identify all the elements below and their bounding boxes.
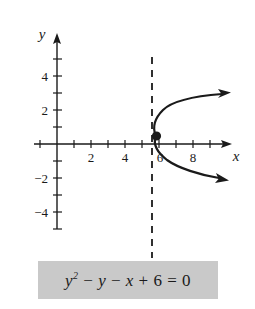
equation-minus-1: − <box>83 270 93 289</box>
equation-plus: + <box>139 270 149 289</box>
x-tick-label-4: 4 <box>122 150 129 165</box>
equation-equals: = <box>167 270 177 289</box>
parabola-lower-branch <box>155 137 219 178</box>
x-tick-label-2: 2 <box>88 150 95 165</box>
x-tick-label-8: 8 <box>190 150 197 165</box>
x-axis-label: x <box>232 148 240 164</box>
y-tick-label-neg4: −4 <box>34 205 48 220</box>
y-tick-label-4: 4 <box>42 69 49 84</box>
y-axis-label: y <box>37 26 46 42</box>
x-axis <box>34 140 232 148</box>
y-tick-label-2: 2 <box>42 103 49 118</box>
y-tick-label-neg2: −2 <box>34 171 48 186</box>
equation-caption-box: y2 − y − x + 6 = 0 <box>38 261 218 299</box>
y-axis <box>53 33 61 229</box>
equation-text: y2 − y − x + 6 = 0 <box>65 270 191 291</box>
equation-x-term: x <box>126 270 134 289</box>
equation-minus-2: − <box>111 270 121 289</box>
equation-y-variable: y <box>65 270 73 289</box>
equation-zero: 0 <box>182 270 191 289</box>
equation-constant-six: 6 <box>153 270 162 289</box>
equation-exponent: 2 <box>73 270 79 281</box>
vertex-point-marker <box>152 131 161 140</box>
parabola-upper-branch <box>154 94 222 135</box>
equation-y-term: y <box>98 270 106 289</box>
